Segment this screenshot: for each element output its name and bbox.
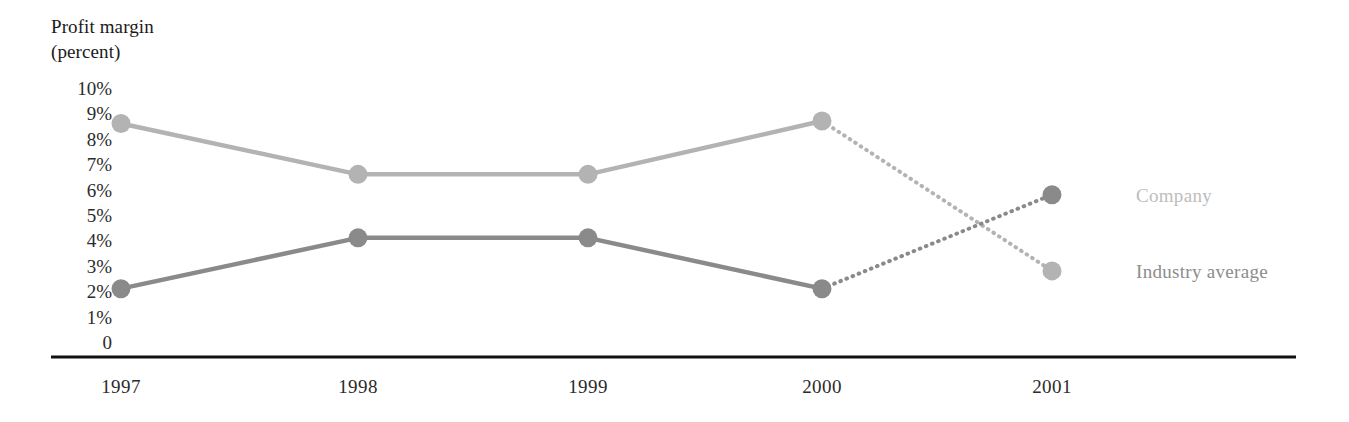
- series-line-solid-0: [121, 121, 822, 174]
- series-line-projected-1: [822, 195, 1052, 289]
- data-point-marker[interactable]: [1043, 261, 1062, 280]
- plot-area: [0, 0, 1349, 422]
- legend-label-company: Company: [1136, 186, 1212, 205]
- x-axis-tick-label: 1997: [101, 377, 141, 396]
- data-point-marker[interactable]: [813, 112, 832, 131]
- x-axis-tick-label: 2000: [802, 377, 842, 396]
- data-point-marker[interactable]: [112, 114, 131, 133]
- legend-label-industry-average: Industry average: [1136, 262, 1268, 281]
- data-point-marker[interactable]: [349, 228, 368, 247]
- series-layer: [112, 112, 1062, 299]
- data-point-marker[interactable]: [349, 165, 368, 184]
- series-line-projected-0: [822, 121, 1052, 271]
- data-point-marker[interactable]: [112, 279, 131, 298]
- data-point-marker[interactable]: [1043, 185, 1062, 204]
- x-axis-tick-label: 1999: [568, 377, 608, 396]
- data-point-marker[interactable]: [813, 279, 832, 298]
- data-point-marker[interactable]: [579, 165, 598, 184]
- series-line-solid-1: [121, 238, 822, 289]
- x-axis-tick-label: 1998: [338, 377, 378, 396]
- data-point-marker[interactable]: [579, 228, 598, 247]
- x-axis-tick-label: 2001: [1032, 377, 1072, 396]
- profit-margin-line-chart: Profit margin(percent) 10%9%8%7%6%5%4%3%…: [0, 0, 1349, 422]
